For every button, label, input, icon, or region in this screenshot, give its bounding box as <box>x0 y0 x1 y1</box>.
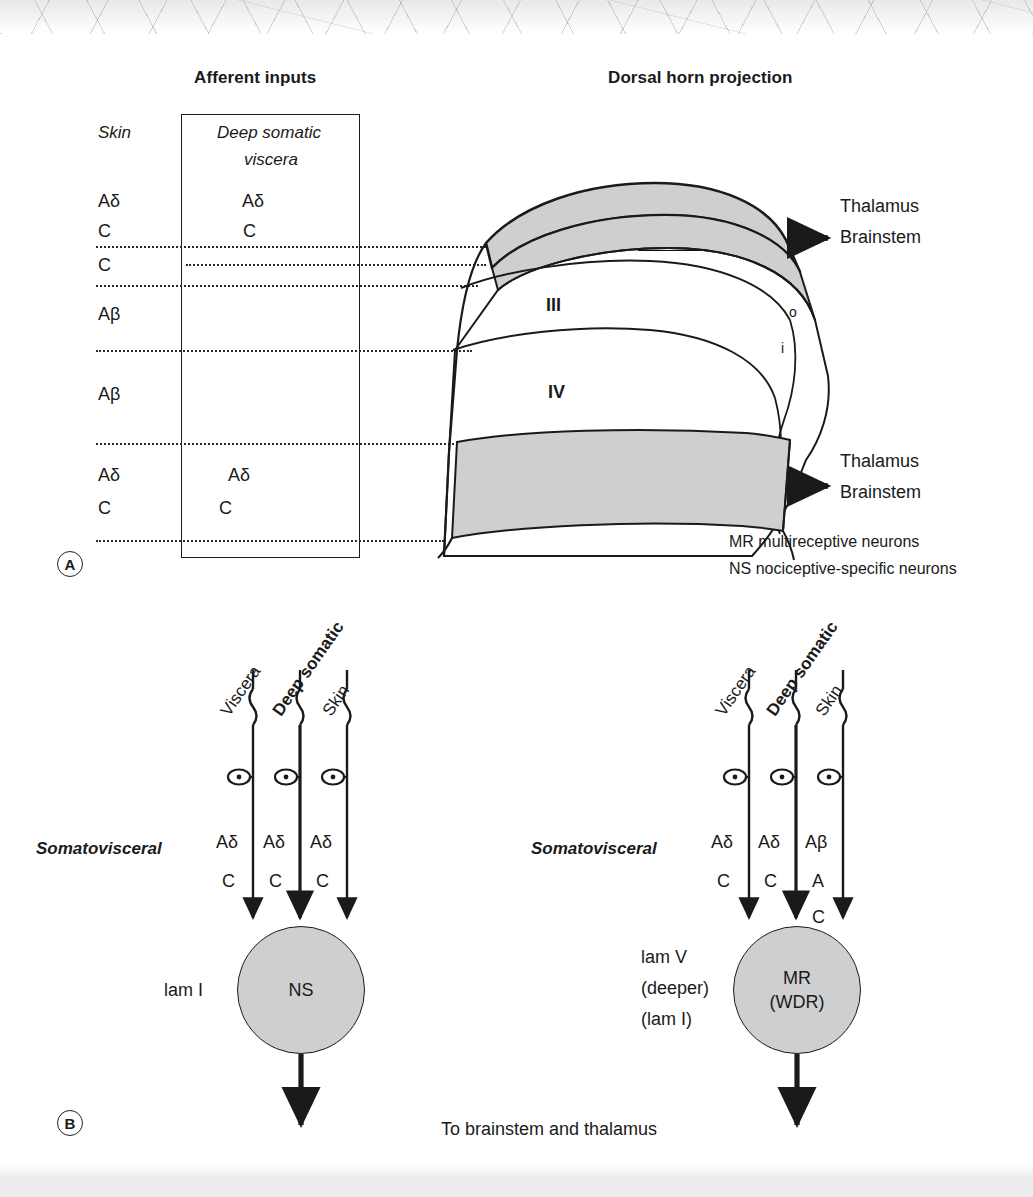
lamina-ii-inner-label: i <box>781 341 784 355</box>
skin-fiber-2: C <box>98 222 111 240</box>
lamina-ii-inner-recurve <box>773 320 795 492</box>
lamina-ii-outer-label: o <box>789 305 797 319</box>
projection-superficial-line2: Brainstem <box>840 228 921 246</box>
left-ganglion-1-nucleus <box>237 775 242 780</box>
scan-texture-top <box>0 0 1033 34</box>
right-fibre-3-source: Skin <box>812 681 847 720</box>
right-ganglion-1 <box>724 770 746 785</box>
heading-dorsal-horn-projection: Dorsal horn projection <box>608 69 793 86</box>
deep-somatic-viscera-box <box>181 114 360 558</box>
right-fibre-2-type-1: Aδ <box>758 833 780 851</box>
lamina-iv-recurve <box>774 398 781 534</box>
right-fibre-3-type-2: A <box>812 872 824 890</box>
lamina-iii-iv-boundary <box>453 328 775 398</box>
left-soma-label: NS <box>288 978 313 1002</box>
marker-box-lamina-ii: NS, MR <box>638 231 701 251</box>
deep-column-title-line2: viscera <box>244 151 298 168</box>
marker-box-lamina-i: NS, MR <box>637 196 700 216</box>
left-lamina-label: lam I <box>164 981 203 999</box>
skin-column-title: Skin <box>98 124 131 141</box>
lamina-label-iii: III <box>546 296 561 314</box>
right-fibre-2-type-2: C <box>764 872 777 890</box>
divider-rule-5 <box>96 443 458 445</box>
left-neuron-soma: NS <box>237 926 365 1054</box>
deep-fiber-1: Aδ <box>242 192 264 210</box>
lamina-ii-iii-boundary <box>461 261 790 320</box>
skin-fiber-7: C <box>98 499 111 517</box>
skin-fiber-5: Aβ <box>98 385 120 403</box>
skin-fiber-4: Aβ <box>98 305 120 323</box>
scan-texture-bottom <box>0 1165 1033 1197</box>
left-ganglion-1 <box>228 770 250 785</box>
right-neuron-soma: MR (WDR) <box>733 926 861 1054</box>
divider-rule-3 <box>96 285 478 287</box>
lamina-label-ii: II <box>549 240 559 258</box>
skin-fiber-3: C <box>98 256 111 274</box>
right-soma-label-line2: (WDR) <box>770 990 825 1014</box>
skin-fiber-6: Aδ <box>98 466 120 484</box>
left-ganglion-2-nucleus <box>284 775 289 780</box>
right-ganglion-1-nucleus <box>733 775 738 780</box>
right-ganglion-3-nucleus <box>827 775 832 780</box>
dorsal-horn-left-edge <box>444 243 486 556</box>
right-ganglion-3 <box>818 770 840 785</box>
left-fibre-2-type-2: C <box>269 872 282 890</box>
right-fibre-3-type-1: Aβ <box>805 833 827 851</box>
left-fibre-1-type-2: C <box>222 872 235 890</box>
deep-column-title-line1: Deep somatic <box>217 124 321 141</box>
right-axon-1 <box>746 689 753 725</box>
divider-rule-6 <box>96 540 444 542</box>
left-fibre-3-type-1: Aδ <box>310 833 332 851</box>
right-lamina-label-line2: (deeper) <box>641 979 709 997</box>
right-fibre-1-type-2: C <box>717 872 730 890</box>
left-ganglion-2 <box>275 770 297 785</box>
deep-fiber-2: C <box>243 222 256 240</box>
legend-ns: NS nociceptive-specific neurons <box>729 561 957 577</box>
left-fibre-2-type-1: Aδ <box>263 833 285 851</box>
skin-fiber-1: Aδ <box>98 192 120 210</box>
left-ganglion-3 <box>322 770 344 785</box>
panel-a-badge: A <box>57 551 83 577</box>
left-neuron-side-label: Somatovisceral <box>36 840 162 857</box>
heading-afferent-inputs: Afferent inputs <box>194 69 316 86</box>
legend-mr: MR multireceptive neurons <box>729 534 919 550</box>
right-neuron-side-label: Somatovisceral <box>531 840 657 857</box>
divider-rule-2 <box>186 264 486 266</box>
divider-rule-1 <box>96 246 486 248</box>
projection-deep-line2: Brainstem <box>840 483 921 501</box>
left-fibre-3-type-2: C <box>316 872 329 890</box>
deep-fiber-3: Aδ <box>228 466 250 484</box>
deep-fiber-4: C <box>219 499 232 517</box>
left-neuron-drawing <box>228 670 351 1125</box>
dorsal-horn-body-outline <box>444 248 829 556</box>
right-ganglion-2 <box>771 770 793 785</box>
line-art-overlay <box>0 0 1033 1197</box>
lamina-v-band <box>452 430 790 538</box>
lamina-label-iv: IV <box>548 383 565 401</box>
right-neuron-drawing <box>724 670 847 1125</box>
panel-b-badge: B <box>57 1110 83 1136</box>
left-fibre-3-source: Skin <box>319 681 354 720</box>
projection-superficial-line1: Thalamus <box>840 197 919 215</box>
right-fibre-1-source: Viscera <box>712 662 761 720</box>
panel-b-bottom-caption: To brainstem and thalamus <box>441 1120 657 1138</box>
dorsal-horn-drawing <box>438 183 829 560</box>
divider-rule-4 <box>96 350 472 352</box>
left-ganglion-3-nucleus <box>331 775 336 780</box>
left-fibre-1-source: Viscera <box>217 662 266 720</box>
right-lamina-label-line1: lam V <box>641 948 687 966</box>
lamina-label-v: V <box>552 471 564 489</box>
projection-deep-line1: Thalamus <box>840 452 919 470</box>
right-soma-label-line1: MR <box>783 966 811 990</box>
marker-box-lamina-v: MR <box>640 470 692 490</box>
figure-canvas: Afferent inputs Dorsal horn projection S… <box>0 0 1033 1197</box>
left-fibre-1-type-1: Aδ <box>216 833 238 851</box>
lamina-label-i: I <box>553 200 558 218</box>
right-fibre-3-type-3: C <box>812 908 825 926</box>
right-ganglion-2-nucleus <box>780 775 785 780</box>
right-fibre-1-type-1: Aδ <box>711 833 733 851</box>
right-lamina-label-line3: (lam I) <box>641 1010 692 1028</box>
